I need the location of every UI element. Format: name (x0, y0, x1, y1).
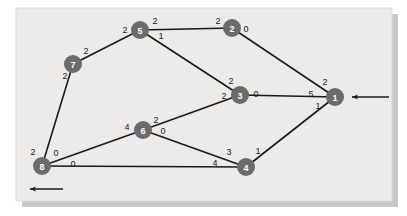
node-5-label: 5 (137, 26, 142, 36)
network-graph-figure: 2 2 2 2 2 2 1 2 0 2 0 5 1 1 2 2 0 4 0 4 … (0, 0, 407, 216)
weight-8-4-tgt: 4 (212, 158, 217, 168)
node-2[interactable]: 2 (223, 19, 241, 37)
node-1[interactable]: 1 (326, 88, 344, 106)
weight-8-4-src: 0 (70, 159, 75, 169)
weight-3-1-src: 0 (253, 89, 258, 99)
graph-canvas: 2 2 2 2 2 2 1 2 0 2 0 5 1 1 2 2 0 4 0 4 … (0, 0, 407, 216)
node-3-label: 3 (237, 91, 242, 101)
weight-4-1-tgt: 1 (315, 101, 320, 111)
node-8-label: 8 (39, 162, 44, 172)
weight-4-1-src: 1 (255, 146, 260, 156)
node-7[interactable]: 7 (64, 55, 82, 73)
weight-6-3-tgt: 2 (221, 91, 226, 101)
weight-2-1-tgt: 2 (322, 77, 327, 87)
node-3[interactable]: 3 (231, 86, 249, 104)
node-5[interactable]: 5 (131, 21, 149, 39)
weight-6-4-tgt: 3 (226, 147, 231, 157)
weight-8-6-tgt: 4 (124, 122, 129, 132)
node-4[interactable]: 4 (237, 158, 255, 176)
weight-5-2-tgt: 2 (215, 16, 220, 26)
weight-2-1-src: 0 (243, 24, 248, 34)
node-7-label: 7 (70, 60, 75, 70)
weight-6-4-src: 0 (160, 126, 165, 136)
node-1-label: 1 (332, 93, 337, 103)
node-4-label: 4 (243, 163, 248, 173)
weight-6-3-src: 2 (153, 115, 158, 125)
weight-7-8-tgt: 2 (30, 147, 35, 157)
node-6-label: 6 (140, 126, 145, 136)
node-8[interactable]: 8 (33, 157, 51, 175)
weight-7-5-src: 2 (83, 46, 88, 56)
weight-5-3-src: 1 (158, 31, 163, 41)
weight-8-6-src: 0 (53, 148, 58, 158)
weight-5-3-tgt: 2 (228, 76, 233, 86)
weight-5-2-src: 2 (152, 16, 157, 26)
weight-7-5-tgt: 2 (122, 25, 127, 35)
weight-7-8-src: 2 (62, 71, 67, 81)
weight-3-1-tgt: 5 (308, 89, 313, 99)
node-6[interactable]: 6 (134, 121, 152, 139)
node-2-label: 2 (229, 24, 234, 34)
